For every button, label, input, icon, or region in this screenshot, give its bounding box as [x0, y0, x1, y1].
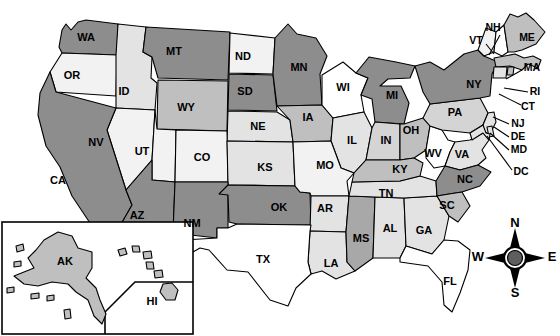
state-label-AK[interactable]: AK — [57, 255, 73, 267]
state-label-NH[interactable]: NH — [485, 21, 500, 33]
state-label-SC[interactable]: SC — [439, 199, 454, 211]
state-label-MA[interactable]: MA — [524, 61, 541, 73]
state-label-IN[interactable]: IN — [381, 134, 392, 146]
state-label-IA[interactable]: IA — [303, 111, 314, 123]
ak-island-1 — [16, 244, 24, 252]
compass-rose: N S W E — [472, 215, 557, 300]
state-label-AZ[interactable]: AZ — [130, 209, 145, 221]
compass-label-south: S — [511, 285, 520, 300]
ak-island-6 — [64, 309, 71, 319]
state-label-HI[interactable]: HI — [147, 295, 158, 307]
state-label-NV[interactable]: NV — [88, 136, 104, 148]
leader-line-RI — [504, 88, 528, 92]
state-OK[interactable] — [219, 185, 311, 225]
state-label-CT[interactable]: CT — [521, 100, 536, 112]
ak-island-4 — [31, 293, 39, 299]
ak-island-5 — [47, 295, 54, 301]
state-label-NM[interactable]: NM — [183, 217, 200, 229]
compass-label-north: N — [510, 215, 519, 230]
hi-island-1 — [118, 248, 127, 256]
hi-island-2 — [132, 246, 140, 252]
compass-label-west: W — [472, 249, 485, 264]
state-label-ME[interactable]: ME — [519, 31, 535, 43]
state-label-UT[interactable]: UT — [135, 145, 150, 157]
state-label-IL[interactable]: IL — [347, 134, 357, 146]
state-label-WV[interactable]: WV — [424, 147, 442, 159]
leader-line-DE — [494, 127, 509, 137]
state-label-MS[interactable]: MS — [353, 232, 370, 244]
state-label-RI[interactable]: RI — [530, 85, 541, 97]
state-FL[interactable] — [400, 240, 470, 312]
state-label-PA[interactable]: PA — [448, 106, 463, 118]
state-label-DC[interactable]: DC — [513, 165, 529, 177]
state-label-LA[interactable]: LA — [324, 257, 339, 269]
us-map-svg: WAORIDMTWYNDSDNEMNIAWIMINVUTCOKSILINOHPA… — [0, 0, 560, 336]
state-label-FL[interactable]: FL — [443, 275, 457, 287]
state-label-CA[interactable]: CA — [50, 174, 66, 186]
state-label-SD[interactable]: SD — [237, 85, 252, 97]
state-label-MN[interactable]: MN — [290, 61, 307, 73]
state-label-OH[interactable]: OH — [403, 124, 420, 136]
state-label-MI[interactable]: MI — [386, 89, 398, 101]
state-label-OK[interactable]: OK — [271, 201, 288, 213]
state-label-TX[interactable]: TX — [256, 253, 271, 265]
state-label-VT[interactable]: VT — [469, 34, 483, 46]
alaska-hawaii-inset — [2, 222, 193, 334]
hi-island-4 — [146, 262, 154, 269]
state-label-GA[interactable]: GA — [416, 224, 433, 236]
state-label-WA[interactable]: WA — [77, 31, 95, 43]
state-label-KY[interactable]: KY — [392, 163, 408, 175]
state-label-MD[interactable]: MD — [511, 143, 528, 155]
state-label-KS[interactable]: KS — [257, 161, 272, 173]
state-label-WI[interactable]: WI — [336, 81, 349, 93]
state-OR[interactable] — [50, 53, 117, 96]
state-label-NY[interactable]: NY — [466, 78, 482, 90]
state-label-AR[interactable]: AR — [317, 202, 333, 214]
state-label-DE[interactable]: DE — [511, 130, 526, 142]
state-label-CO[interactable]: CO — [194, 151, 211, 163]
state-label-MO[interactable]: MO — [316, 159, 334, 171]
state-label-NJ[interactable]: NJ — [511, 117, 525, 129]
state-NY[interactable] — [415, 50, 498, 104]
state-RI[interactable] — [507, 67, 514, 75]
state-label-ID[interactable]: ID — [119, 85, 130, 97]
ak-island-2 — [14, 261, 21, 267]
state-label-MT[interactable]: MT — [166, 45, 182, 57]
state-label-WY[interactable]: WY — [177, 101, 195, 113]
state-label-ND[interactable]: ND — [235, 50, 251, 62]
state-label-NE[interactable]: NE — [250, 120, 265, 132]
state-label-VA[interactable]: VA — [455, 148, 470, 160]
state-label-AL[interactable]: AL — [383, 222, 398, 234]
ak-island-3 — [7, 287, 14, 293]
state-CT[interactable] — [493, 67, 507, 78]
compass-hub — [508, 251, 523, 266]
state-label-TN[interactable]: TN — [379, 187, 394, 199]
hi-island-5 — [154, 270, 163, 278]
state-MT[interactable] — [143, 27, 230, 80]
state-label-OR[interactable]: OR — [64, 69, 81, 81]
us-map-figure: WAORIDMTWYNDSDNEMNIAWIMINVUTCOKSILINOHPA… — [0, 0, 560, 336]
state-label-NC[interactable]: NC — [457, 173, 473, 185]
compass-label-east: E — [548, 249, 557, 264]
hi-island-3 — [143, 251, 152, 259]
leader-line-CT — [499, 94, 521, 105]
